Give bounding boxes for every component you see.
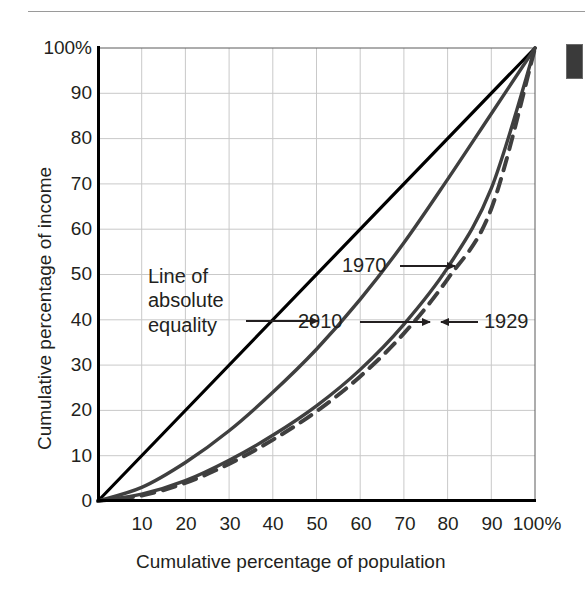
x-tick-label: 30 xyxy=(210,513,250,535)
x-tick-label: 10 xyxy=(122,513,162,535)
x-axis-title: Cumulative percentage of population xyxy=(136,551,445,573)
y-axis-title: Cumulative percentage of income xyxy=(34,167,56,450)
y-tick-label: 90 xyxy=(24,82,92,104)
x-tick-label: 60 xyxy=(341,513,381,535)
x-tick-label: 70 xyxy=(385,513,425,535)
y-tick-label: 80 xyxy=(24,127,92,149)
annotation-1929: 1929 xyxy=(484,309,529,333)
y-tick-label: 0 xyxy=(24,490,92,512)
annotation-equality: Line of absolute equality xyxy=(148,264,224,337)
annotation-equality-line1: Line of xyxy=(148,264,224,288)
annotation-equality-line3: equality xyxy=(148,313,224,337)
x-tick-label: 20 xyxy=(166,513,206,535)
x-tick-label: 100% xyxy=(505,513,569,535)
x-tick-label: 50 xyxy=(297,513,337,535)
x-tick-label: 40 xyxy=(253,513,293,535)
annotation-2010: 2010 xyxy=(298,309,343,333)
annotation-equality-line2: absolute xyxy=(148,288,224,312)
annotation-1970: 1970 xyxy=(342,253,387,277)
lorenz-curve-figure: 100% 90 80 70 60 50 40 30 20 10 0 10 20 … xyxy=(0,0,585,599)
y-tick-label: 100% xyxy=(24,37,92,59)
x-tick-label: 80 xyxy=(428,513,468,535)
